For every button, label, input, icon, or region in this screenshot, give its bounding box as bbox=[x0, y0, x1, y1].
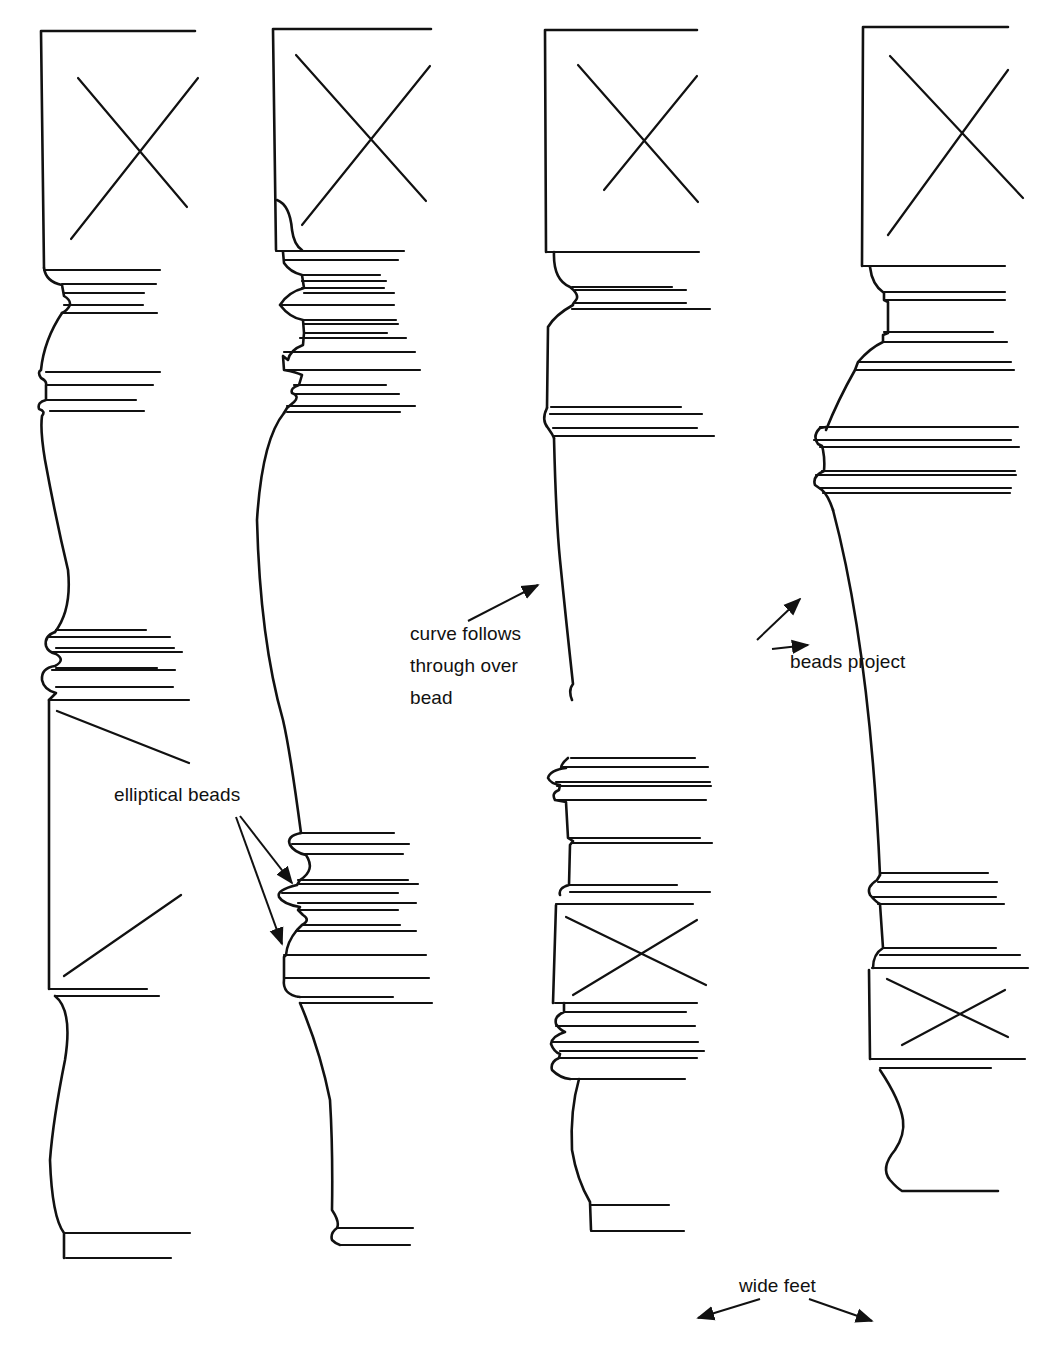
block-cross-icon bbox=[887, 979, 1008, 1045]
pommel-cross-icon bbox=[296, 55, 430, 225]
annotation-wide-feet: wide feet bbox=[739, 1270, 816, 1302]
leg-4 bbox=[814, 27, 1028, 1191]
arrow-curve-follows-icon bbox=[468, 585, 538, 621]
block-cross-icon bbox=[566, 917, 706, 995]
pommel-cross-icon bbox=[578, 65, 698, 202]
arrow-beads-project-1-icon bbox=[757, 599, 800, 640]
figure-canvas bbox=[0, 0, 1056, 1372]
arrow-wide-feet-right-icon bbox=[809, 1299, 872, 1321]
leg-profiles-figure: curve follows through over bead beads pr… bbox=[0, 0, 1056, 1372]
annotation-curve-follows: curve follows through over bead bbox=[410, 618, 521, 714]
leg-3 bbox=[544, 30, 714, 1231]
annotation-beads-project: beads project bbox=[790, 646, 905, 678]
arrow-elliptical-beads-2-icon bbox=[236, 817, 282, 944]
leg-1 bbox=[39, 31, 198, 1258]
pommel-cross-icon bbox=[888, 56, 1023, 235]
block-cross-icon bbox=[57, 711, 189, 976]
leg-2 bbox=[257, 29, 432, 1245]
annotation-elliptical-beads: elliptical beads bbox=[114, 779, 240, 811]
pommel-cross-icon bbox=[71, 78, 198, 239]
